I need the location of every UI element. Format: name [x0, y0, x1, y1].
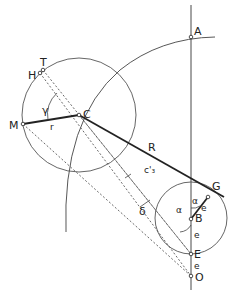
label-o: O: [195, 271, 204, 284]
point-m: [21, 122, 25, 126]
label-c: C: [83, 108, 91, 121]
label-gamma: γ: [42, 104, 49, 117]
alpha-arc-lower: [180, 225, 191, 232]
point-e: [189, 252, 193, 256]
label-h: H: [28, 69, 36, 82]
point-a: [189, 35, 193, 39]
gamma-arc: [48, 93, 57, 120]
point-c: [77, 113, 81, 117]
label-m: M: [9, 119, 19, 132]
label-a: A: [194, 25, 202, 38]
label-g: G: [212, 180, 221, 193]
point-b: [189, 217, 193, 221]
point-g: [206, 195, 210, 199]
label-c3: c'₃: [144, 165, 155, 175]
label-b: B: [195, 212, 203, 225]
geometry-diagram: A T H C M r γ R c'₃ δ G α α e B e E e O: [0, 0, 230, 293]
label-t: T: [39, 56, 47, 69]
label-e-point: E: [194, 248, 201, 261]
label-alpha-lower: α: [176, 205, 182, 215]
line-c-g: [79, 115, 224, 197]
label-alpha-upper: α: [192, 196, 198, 206]
dashed-line-h-o: [40, 73, 191, 276]
dashed-line-m-o: [23, 124, 191, 276]
label-e-middle: e: [194, 230, 200, 240]
label-R: R: [148, 141, 156, 154]
point-o: [189, 274, 193, 278]
label-r: r: [50, 122, 54, 132]
point-h: [38, 71, 42, 75]
c3-tick: [125, 174, 131, 178]
label-e-lower: e: [194, 261, 200, 271]
label-delta: δ: [139, 205, 146, 218]
